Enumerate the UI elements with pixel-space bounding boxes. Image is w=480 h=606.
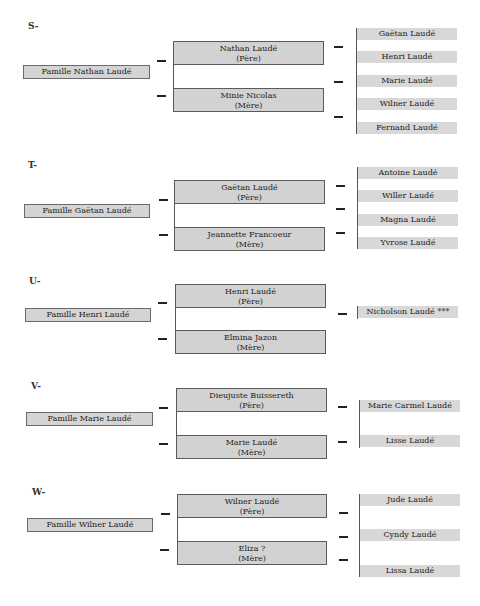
- father-role: (Père): [174, 54, 323, 64]
- father-name: Wilner Laudé: [178, 497, 326, 507]
- mother-box: Jeannette Francoeur (Mère): [174, 227, 325, 251]
- connector-dash: [159, 199, 168, 201]
- mother-name: Minie Nicolas: [174, 91, 323, 101]
- connector-dash: [334, 81, 343, 83]
- section-label: U-: [29, 276, 40, 286]
- connector-dash: [339, 536, 348, 538]
- connector-dash: [159, 443, 168, 445]
- mother-box: Eliza ? (Mère): [177, 541, 327, 565]
- mother-role: (Mère): [176, 343, 325, 353]
- child-box: Fernand Laudé: [357, 122, 457, 134]
- connector-dash: [158, 338, 167, 340]
- mother-role: (Mère): [177, 448, 326, 458]
- couple-line: [173, 64, 174, 88]
- connector-dash: [161, 513, 170, 515]
- child-box: Wilner Laudé: [357, 98, 457, 110]
- mother-name: Elmina Jazon: [176, 333, 325, 343]
- child-box: Magna Laudé: [358, 214, 458, 226]
- child-box: Cyndy Laudé: [360, 529, 460, 541]
- couple-line: [175, 307, 176, 331]
- child-box: Willer Laudé: [358, 190, 458, 202]
- father-box: Gaëtan Laudé (Père): [174, 180, 325, 204]
- section-label: S-: [28, 21, 39, 31]
- family-box: Famille Gaëtan Laudé: [24, 204, 150, 218]
- connector-dash: [336, 208, 345, 210]
- section-label: T-: [28, 160, 37, 170]
- connector-dash: [157, 95, 166, 97]
- connector-dash: [336, 232, 345, 234]
- father-box: Wilner Laudé (Père): [177, 494, 327, 518]
- connector-dash: [160, 549, 169, 551]
- child-box: Lissa Laudé: [360, 565, 460, 577]
- couple-line: [177, 518, 178, 542]
- child-box: Yvrose Laudé: [358, 237, 458, 249]
- father-box: Henri Laudé (Père): [175, 284, 326, 308]
- child-box: Jude Laudé: [360, 494, 460, 506]
- connector-dash: [339, 512, 348, 514]
- connector-dash: [157, 60, 166, 62]
- child-box: Lisse Laudé: [360, 435, 460, 447]
- connector-dash: [334, 116, 343, 118]
- connector-dash: [159, 234, 168, 236]
- mother-box: Marie Laudé (Mère): [176, 435, 327, 459]
- section-label: V-: [31, 381, 41, 391]
- couple-line: [174, 203, 175, 227]
- child-box: Henri Laudé: [357, 51, 457, 63]
- connector-dash: [338, 406, 347, 408]
- connector-dash: [338, 313, 347, 315]
- mother-box: Elmina Jazon (Mère): [175, 330, 326, 354]
- mother-role: (Mère): [175, 240, 324, 250]
- family-box: Famille Marie Laudé: [26, 412, 153, 426]
- connector-dash: [334, 46, 343, 48]
- family-box: Famille Henri Laudé: [25, 308, 151, 322]
- father-role: (Père): [175, 193, 324, 203]
- mother-name: Marie Laudé: [177, 438, 326, 448]
- connector-dash: [338, 441, 347, 443]
- family-box: Famille Nathan Laudé: [23, 65, 150, 79]
- couple-line: [176, 412, 177, 436]
- child-box: Gaëtan Laudé: [357, 28, 457, 40]
- child-box: Nicholson Laudé ***: [358, 306, 458, 318]
- father-role: (Père): [178, 507, 326, 517]
- father-name: Nathan Laudé: [174, 44, 323, 54]
- connector-dash: [339, 559, 348, 561]
- child-box: Antoine Laudé: [358, 167, 458, 179]
- child-box: Marie Carmel Laudé: [360, 400, 460, 412]
- father-name: Gaëtan Laudé: [175, 183, 324, 193]
- father-box: Nathan Laudé (Père): [173, 41, 324, 65]
- mother-name: Jeannette Francoeur: [175, 230, 324, 240]
- father-box: Dieujuste Buissereth (Père): [176, 388, 327, 412]
- mother-role: (Mère): [174, 101, 323, 111]
- mother-role: (Mère): [178, 554, 326, 564]
- connector-dash: [158, 302, 167, 304]
- mother-name: Eliza ?: [178, 544, 326, 554]
- father-role: (Père): [176, 297, 325, 307]
- mother-box: Minie Nicolas (Mère): [173, 88, 324, 112]
- family-box: Famille Wilner Laudé: [27, 518, 153, 532]
- child-box: Marie Laudé: [357, 75, 457, 87]
- father-name: Dieujuste Buissereth: [177, 391, 326, 401]
- section-label: W-: [32, 487, 45, 497]
- father-role: (Père): [177, 401, 326, 411]
- father-name: Henri Laudé: [176, 287, 325, 297]
- connector-dash: [159, 407, 168, 409]
- connector-dash: [336, 185, 345, 187]
